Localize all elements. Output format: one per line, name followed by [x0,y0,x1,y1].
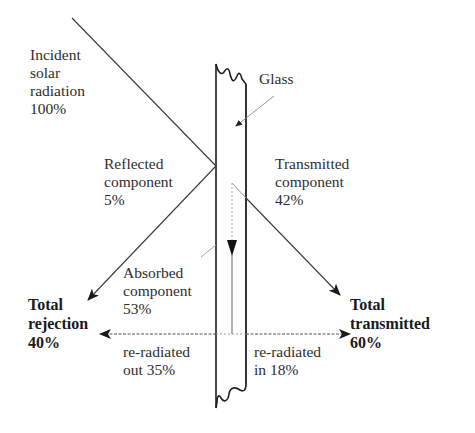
reflected-label-line2: component [104,173,173,191]
transmitted-label-line1: Transmitted [275,155,349,173]
reradiated-out-label: re-radiated out 35% [123,343,190,379]
total-transmitted-line3: 60% [350,333,430,352]
total-transmitted-line2: transmitted [350,314,430,333]
incident-label: Incident solar radiation 100% [30,46,85,118]
reflected-label-line3: 5% [104,191,173,209]
total-rejection-label: Total rejection 40% [28,295,88,352]
absorbed-label-line1: Absorbed [123,264,192,282]
total-transmitted-label: Total transmitted 60% [350,295,430,352]
transmitted-label-line3: 42% [275,191,349,209]
glass-label: Glass [259,70,293,88]
total-rejection-line2: rejection [28,314,88,333]
incident-label-line3: radiation [30,82,85,100]
glass-pane [216,64,246,408]
glass-top-break [216,64,246,84]
incident-ray [72,18,216,166]
transmitted-ray-inside [232,183,246,198]
reradiated-in-line1: re-radiated [254,343,321,361]
transmitted-label: Transmitted component 42% [275,155,349,209]
absorbed-label-line2: component [123,282,192,300]
reradiated-out-line2: out 35% [123,361,190,379]
absorbed-label: Absorbed component 53% [123,264,192,318]
transmitted-label-line2: component [275,173,349,191]
total-transmitted-line1: Total [350,295,430,314]
reradiated-out-line1: re-radiated [123,343,190,361]
glass-bottom-break [216,384,246,408]
total-rejection-line1: Total [28,295,88,314]
glass-pointer [236,96,274,126]
absorbed-down-arrow-icon [227,240,237,256]
transmitted-ray [246,198,340,295]
glass-label-text: Glass [259,70,293,88]
absorbed-label-line3: 53% [123,300,192,318]
reflected-label: Reflected component 5% [104,155,173,209]
incident-label-line4: 100% [30,100,85,118]
absorbed-pointer [201,245,216,257]
reradiated-in-label: re-radiated in 18% [254,343,321,379]
reflected-label-line1: Reflected [104,155,173,173]
total-rejection-line3: 40% [28,333,88,352]
incident-label-line2: solar [30,64,85,82]
reradiated-in-line2: in 18% [254,361,321,379]
incident-label-line1: Incident [30,46,85,64]
